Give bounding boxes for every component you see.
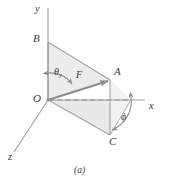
- z-axis-label: z: [8, 152, 12, 163]
- phi-angle-label: ϕ: [121, 112, 126, 122]
- point-a-label: A: [114, 66, 121, 77]
- point-o-label: O: [33, 93, 41, 104]
- force-vector-label: F: [76, 70, 82, 80]
- z-axis-line: [14, 100, 48, 152]
- x-axis-label: x: [149, 101, 154, 112]
- y-axis-label: y: [35, 4, 40, 15]
- origin-point-marker: [47, 99, 50, 102]
- theta-y-angle-label: θy: [54, 67, 62, 78]
- point-b-label: B: [33, 33, 40, 44]
- figure-caption: (a): [74, 165, 85, 175]
- theta-subscript: y: [59, 71, 62, 78]
- figure-container: y x z O B A C F θy ϕ (a): [0, 0, 169, 187]
- right-face-region: [110, 80, 131, 135]
- point-c-label: C: [109, 136, 116, 147]
- vector-diagram-svg: [0, 0, 169, 187]
